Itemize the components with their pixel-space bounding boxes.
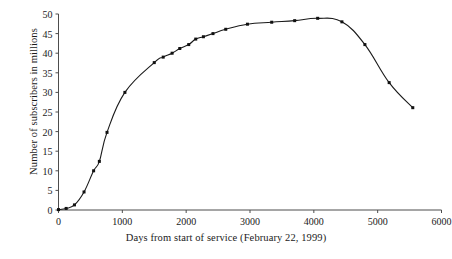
plot-area [0,0,452,259]
data-point-marker [270,21,273,24]
data-point-marker [98,160,101,163]
data-point-marker [246,23,249,26]
data-point-marker [73,203,76,206]
data-point-marker [224,28,227,31]
data-point-marker [83,190,86,193]
data-point-marker [57,208,60,211]
chart-figure: Number of subscribers in millions Days f… [0,0,452,259]
data-point-marker [211,32,214,35]
subscribers-markers [57,17,414,211]
data-point-marker [202,35,205,38]
subscribers-line [59,18,413,209]
data-point-marker [178,47,181,50]
data-point-marker [316,17,319,20]
data-point-marker [171,52,174,55]
data-point-marker [123,91,126,94]
data-point-marker [411,106,414,109]
data-point-marker [187,43,190,46]
axis-spines [59,14,442,210]
data-point-marker [293,19,296,22]
data-series-group [57,17,414,211]
data-point-marker [153,61,156,64]
data-point-marker [194,38,197,41]
data-point-marker [363,43,366,46]
data-point-marker [92,169,95,172]
data-point-marker [340,20,343,23]
data-point-marker [65,207,68,210]
data-point-marker [106,131,109,134]
data-point-marker [388,81,391,84]
data-point-marker [162,56,165,59]
